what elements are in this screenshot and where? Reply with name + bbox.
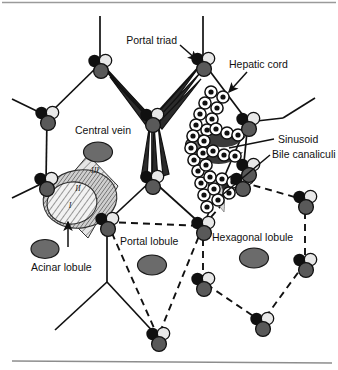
portal-vein-icon [256,322,271,337]
hexagonal-lobule-label: Hexagonal lobule [212,231,293,243]
central-vein-left [31,240,59,259]
acinar-zone-1-label: I [68,201,72,210]
portal-triad-label: Portal triad [126,34,177,46]
portal-vein-icon [146,118,161,133]
acinar-lobule-label: Acinar lobule [31,261,92,273]
portal-vein-icon [299,263,314,278]
portal-vein-icon [299,200,314,215]
portal-vein-icon [197,62,212,77]
portal-vein-icon [41,116,56,131]
liver-lobule-diagram: III II I [0,0,338,370]
central-vein-label: Central vein [75,124,131,136]
acinar-zone-2-label: II [74,184,81,193]
portal-vein-icon [197,282,212,297]
portal-vein-icon [236,182,251,197]
portal-vein-icon [242,168,257,183]
liver-lobule-figure: III II I [0,0,338,370]
portal-vein-icon [146,180,161,195]
portal-vein-icon [152,337,167,352]
portal-vein-icon [101,222,116,237]
hepatic-cord-label: Hepatic cord [229,58,288,70]
portal-vein-icon [40,182,55,197]
portal-lobule-label: Portal lobule [120,235,179,247]
sinusoid-label: Sinusoid [278,133,318,145]
bile-canaliculi-label: Bile canaliculi [272,148,336,160]
central-vein-hexagonal-lobule [240,248,269,268]
portal-vein-icon [197,226,212,241]
portal-vein-icon [94,64,109,79]
central-vein-acinar [84,142,113,162]
central-vein-portal-lobule [138,255,167,275]
acinar-zone-3-label: III [90,166,99,175]
portal-vein-icon [242,122,257,137]
